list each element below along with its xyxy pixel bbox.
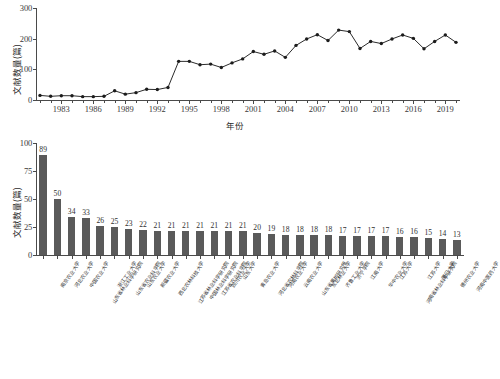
line-chart-data-point (124, 92, 127, 95)
line-chart-data-point (262, 53, 265, 56)
line-chart-data-point (358, 47, 361, 50)
bar-chart-bar (396, 237, 403, 255)
bar-chart-bar (296, 235, 303, 255)
bar-chart-x-tick-mark (100, 256, 101, 259)
line-chart-data-point (60, 94, 63, 97)
bar-chart-x-tick-mark (328, 256, 329, 259)
line-chart-x-tick-mark (72, 101, 73, 103)
line-chart-x-tick-mark (211, 101, 212, 103)
line-chart-x-tick-mark (136, 101, 137, 103)
bar-chart-bar (125, 229, 132, 255)
line-chart-data-point (273, 49, 276, 52)
line-chart-x-tick-mark (435, 101, 436, 103)
line-chart-data-point (444, 33, 447, 36)
line-chart-x-tick-label: 2004 (269, 105, 301, 113)
line-chart-y-tick-label: 0 (6, 96, 32, 104)
bar-chart-x-tick-mark (186, 256, 187, 259)
line-chart-y-tick-label: 200 (6, 35, 32, 43)
bar-chart-bar (68, 217, 75, 255)
line-chart-data-point (380, 42, 383, 45)
bar-chart-x-tick-mark (443, 256, 444, 259)
bar-chart-x-tick-mark (428, 256, 429, 259)
line-chart-x-tick-mark (243, 101, 244, 103)
line-chart-x-tick-mark (83, 101, 84, 103)
line-chart-data-point (305, 37, 308, 40)
bar-chart-x-tick-mark (314, 256, 315, 259)
bar-chart-y-tick-label: 100 (6, 139, 32, 147)
bar-chart-x-tick-mark (400, 256, 401, 259)
bar-chart-bar (382, 236, 389, 255)
bar-chart-x-tick-mark (243, 256, 244, 259)
bar-chart-x-tick-mark (57, 256, 58, 259)
line-chart-x-tick-label: 1998 (205, 105, 237, 113)
bar-chart-x-tick-mark (229, 256, 230, 259)
bar-chart-x-tick-mark (343, 256, 344, 259)
bar-chart-x-tick-mark (86, 256, 87, 259)
line-chart-x-tick-label: 2019 (429, 105, 461, 113)
line-chart-x-tick-mark (424, 101, 425, 103)
bar-chart-panel: 文献数量(篇) 0255075100 南京农业大学河北农业大学中国农业大学山东省… (0, 133, 470, 379)
bar-chart-bar (182, 231, 189, 255)
line-chart-x-tick-mark (360, 101, 361, 103)
line-chart-x-tick-label: 2010 (333, 105, 365, 113)
line-chart-x-tick-label: 2016 (397, 105, 429, 113)
line-chart-data-point (220, 66, 223, 69)
bar-chart-x-tick-mark (43, 256, 44, 259)
bar-chart-bar (353, 236, 360, 255)
bar-chart-x-tick-mark (414, 256, 415, 259)
line-chart-x-tick-mark (339, 101, 340, 103)
line-chart-x-tick-mark (40, 101, 41, 103)
line-chart-data-point (113, 89, 116, 92)
line-chart-y-tick-label: 300 (6, 4, 32, 12)
line-chart-x-axis-spine (36, 100, 460, 101)
bar-chart-x-tick-mark (286, 256, 287, 259)
line-chart-data-point (252, 50, 255, 53)
bar-chart-bar (154, 231, 161, 255)
line-chart-data-point (156, 88, 159, 91)
bar-chart-bar (410, 237, 417, 255)
bar-chart-x-tick-mark (386, 256, 387, 259)
bar-chart-bar (39, 155, 46, 255)
line-chart-data-point (422, 47, 425, 50)
line-chart-x-tick-label: 1989 (109, 105, 141, 113)
bar-chart-bar (368, 236, 375, 255)
line-chart-data-point (348, 30, 351, 33)
bar-chart-bar (310, 235, 317, 255)
bar-chart-bar (96, 226, 103, 255)
line-chart-data-point (92, 95, 95, 98)
line-chart-x-tick-mark (403, 101, 404, 103)
line-chart-x-axis-title: 年份 (0, 119, 470, 131)
line-chart-data-point (390, 37, 393, 40)
line-chart-x-tick-mark (307, 101, 308, 103)
line-chart-data-point (326, 39, 329, 42)
line-chart-data-point (188, 60, 191, 63)
line-chart-data-point (433, 40, 436, 43)
bar-chart-x-tick-mark (271, 256, 272, 259)
bar-chart-x-tick-mark (457, 256, 458, 259)
bar-chart-y-tick-label: 0 (6, 251, 32, 259)
line-chart-data-point (38, 94, 41, 97)
line-chart-data-point (401, 33, 404, 36)
bar-chart-bar (196, 231, 203, 255)
bar-chart-x-tick-mark (72, 256, 73, 259)
bar-chart-value-label: 33 (74, 209, 98, 217)
line-chart-x-tick-mark (104, 101, 105, 103)
bar-chart-value-label: 13 (445, 231, 469, 239)
line-chart-data-point (134, 91, 137, 94)
line-chart-data-point (284, 56, 287, 59)
line-chart-data-point (337, 28, 340, 31)
line-chart-x-tick-mark (296, 101, 297, 103)
bar-chart-value-label: 89 (31, 146, 55, 154)
bar-chart-bar (425, 238, 432, 255)
bar-chart-y-tick-label: 75 (6, 167, 32, 175)
bar-chart-bar (139, 230, 146, 255)
line-chart-data-point (70, 94, 73, 97)
line-chart-x-tick-mark (264, 101, 265, 103)
line-chart-data-point (198, 63, 201, 66)
bar-chart-x-tick-mark (114, 256, 115, 259)
bar-chart-bar (225, 231, 232, 255)
line-chart-data-point (230, 61, 233, 64)
line-chart-x-tick-label: 2007 (301, 105, 333, 113)
bar-chart-category-label: 青岛农业大学 (260, 261, 282, 289)
